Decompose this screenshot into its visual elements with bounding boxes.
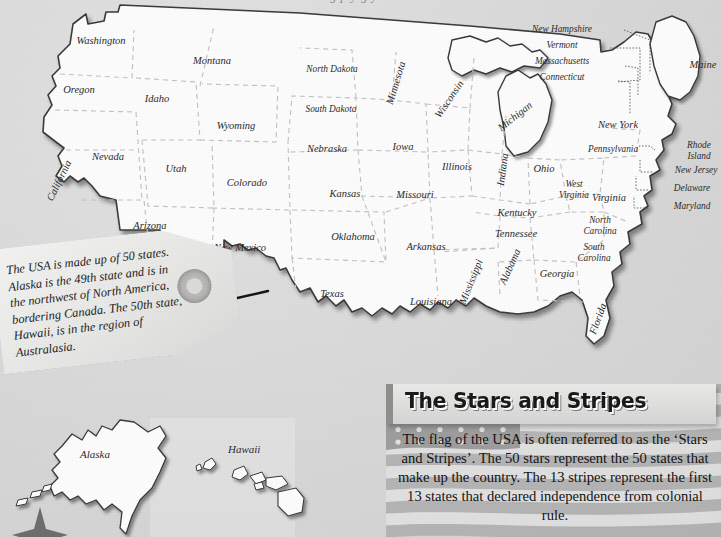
- state-label-oklahoma: Oklahoma: [331, 231, 375, 242]
- alaska-label: Alaska: [80, 448, 110, 460]
- state-label-oregon: Oregon: [63, 84, 95, 95]
- compass-rose-icon: [12, 507, 68, 537]
- state-label-idaho: Idaho: [144, 93, 170, 104]
- state-label-delaware: Delaware: [673, 183, 710, 193]
- state-label-illinois: Illinois: [441, 161, 472, 172]
- state-label-california: California: [44, 158, 73, 202]
- stars-and-stripes-body: The flag of the USA is often referred to…: [396, 430, 714, 525]
- state-label-nebraska: Nebraska: [306, 143, 347, 154]
- hawaii-islands: [196, 458, 304, 516]
- state-label-south-dakota: South Dakota: [306, 104, 357, 114]
- page-root: g p y g y: [0, 0, 721, 537]
- state-label-missouri: Missouri: [395, 189, 433, 200]
- state-label-nevada: Nevada: [91, 151, 124, 162]
- state-label-maryland: Maryland: [673, 201, 711, 211]
- state-label-louisiana: Louisiana: [409, 296, 452, 307]
- state-label-kentucky: Kentucky: [496, 207, 536, 218]
- stars-and-stripes-panel: The Stars and Stripes The flag of the US…: [386, 384, 721, 537]
- state-label-utah: Utah: [166, 163, 187, 174]
- state-label-texas: Texas: [320, 288, 344, 299]
- state-label-vermont: Vermont: [547, 40, 578, 50]
- state-label-iowa: Iowa: [392, 141, 414, 152]
- state-label-rhode-island: RhodeIsland: [686, 140, 711, 161]
- state-label-connecticut: Connecticut: [540, 72, 585, 82]
- state-label-massachusetts: Massachusetts: [534, 56, 590, 66]
- state-label-north-dakota: North Dakota: [305, 64, 358, 74]
- state-label-new-jersey: New Jersey: [674, 165, 718, 175]
- state-label-washington: Washington: [76, 35, 125, 46]
- state-label-wyoming: Wyoming: [217, 120, 256, 131]
- state-label-georgia: Georgia: [540, 268, 575, 279]
- state-label-pennsylvania: Pennsylvania: [587, 144, 638, 154]
- state-label-ohio: Ohio: [534, 163, 555, 174]
- hawaii-label: Hawaii: [228, 443, 260, 455]
- stars-and-stripes-title: The Stars and Stripes: [405, 388, 646, 413]
- stars-and-stripes-header: The Stars and Stripes: [386, 384, 716, 424]
- state-label-tennessee: Tennessee: [495, 228, 538, 239]
- header-accent-bar: [386, 384, 393, 424]
- tag-text: The USA is made up of 50 states. Alaska …: [5, 242, 193, 361]
- state-label-colorado: Colorado: [227, 177, 267, 188]
- state-label-new-hampshire: New Hampshire: [531, 24, 592, 34]
- state-label-montana: Montana: [192, 55, 231, 66]
- state-label-maine: Maine: [689, 59, 717, 70]
- state-label-arkansas: Arkansas: [405, 241, 445, 252]
- state-label-new-york: New York: [597, 119, 639, 130]
- state-label-arizona: Arizona: [132, 220, 166, 231]
- state-label-virginia: Virginia: [592, 192, 626, 203]
- state-label-kansas: Kansas: [329, 188, 361, 199]
